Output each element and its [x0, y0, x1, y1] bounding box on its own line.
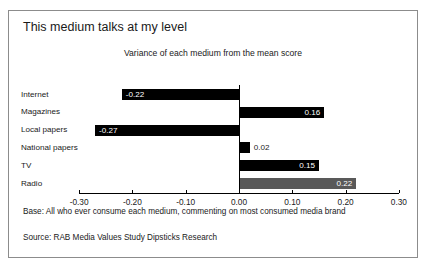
page-title: This medium talks at my level	[23, 20, 187, 34]
category-label: Internet	[21, 90, 48, 100]
axis-tick	[346, 190, 347, 193]
axis-tick	[79, 190, 80, 193]
chart-card: This medium talks at my level Variance o…	[8, 10, 418, 258]
axis-tick	[239, 190, 240, 193]
axis-tick	[132, 190, 133, 193]
axis-tick-label: -0.10	[176, 197, 195, 207]
category-label: Local papers	[21, 125, 67, 135]
chart-plot-area: InternetMagazinesLocal papersNational pa…	[9, 69, 419, 197]
category-label: Radio	[21, 179, 42, 189]
axis-tick-label: -0.20	[123, 197, 142, 207]
axis-tick-label: 0.30	[391, 197, 407, 207]
bar-value-label: 0.22	[330, 178, 352, 189]
bar-value-label: -0.27	[99, 125, 117, 136]
axis-tick	[186, 190, 187, 193]
axis-tick-label: 0.20	[338, 197, 354, 207]
source-note: Source: RAB Media Values Study Dipsticks…	[23, 233, 217, 242]
base-note: Base: All who ever consume each medium, …	[23, 207, 346, 216]
category-label: Magazines	[21, 107, 60, 117]
value-axis-line	[79, 193, 399, 194]
bar-value-label: 0.15	[293, 160, 315, 171]
axis-tick	[292, 190, 293, 193]
bar-value-label: 0.02	[254, 142, 270, 153]
axis-tick	[399, 190, 400, 193]
bar-value-label: -0.22	[126, 89, 144, 100]
zero-axis-line	[239, 85, 240, 193]
bar	[239, 142, 250, 153]
bar-value-label: 0.16	[298, 107, 320, 118]
category-label: National papers	[21, 143, 78, 153]
axis-tick-label: 0.10	[284, 197, 300, 207]
axis-tick-label: -0.30	[70, 197, 89, 207]
category-label: TV	[21, 161, 31, 171]
axis-tick-label: 0.00	[231, 197, 247, 207]
chart-subtitle: Variance of each medium from the mean sc…	[9, 48, 417, 58]
